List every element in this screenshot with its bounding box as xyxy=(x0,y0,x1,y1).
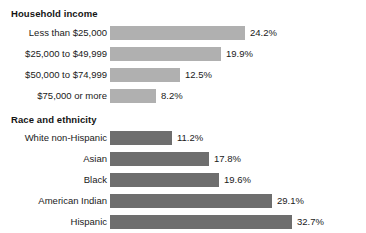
section-title-race-and-ethnicity: Race and ethnicity xyxy=(11,114,97,125)
bar-category-label: Less than $25,000 xyxy=(29,26,107,40)
bar-category-label: $50,000 to $74,999 xyxy=(25,68,107,82)
bar-category-label: American Indian xyxy=(38,194,107,208)
bar-value-label: 29.1% xyxy=(277,194,304,208)
bar-fill xyxy=(110,26,245,40)
bar-row: Asian 17.8% xyxy=(0,152,366,166)
bar-track: 19.9% xyxy=(110,47,366,61)
bar-row: Less than $25,000 24.2% xyxy=(0,26,366,40)
bar-fill xyxy=(110,68,180,82)
chart-panel-household-income: Household income Less than $25,000 24.2%… xyxy=(0,0,366,110)
bar-row: American Indian 29.1% xyxy=(0,194,366,208)
bar-value-label: 24.2% xyxy=(250,26,277,40)
bar-track: 29.1% xyxy=(110,194,366,208)
bar-value-label: 12.5% xyxy=(185,68,212,82)
bar-track: 12.5% xyxy=(110,68,366,82)
bar-row: Black 19.6% xyxy=(0,173,366,187)
bar-fill xyxy=(110,215,292,229)
bar-category-label: $75,000 or more xyxy=(37,89,107,103)
bar-fill xyxy=(110,47,221,61)
bar-row: $75,000 or more 8.2% xyxy=(0,89,366,103)
bar-category-label: Hispanic xyxy=(71,215,107,229)
bar-fill xyxy=(110,152,209,166)
bar-category-label: Black xyxy=(84,173,107,187)
bar-value-label: 11.2% xyxy=(177,131,203,145)
bar-value-label: 19.9% xyxy=(226,47,253,61)
bar-value-label: 32.7% xyxy=(297,215,324,229)
grouped-bar-chart: Household income Less than $25,000 24.2%… xyxy=(0,0,366,233)
bar-category-label: Asian xyxy=(83,152,107,166)
bar-fill xyxy=(110,194,272,208)
bar-row: White non-Hispanic 11.2% xyxy=(0,131,366,145)
bar-value-label: 19.6% xyxy=(224,173,251,187)
bar-category-label: White non-Hispanic xyxy=(25,131,107,145)
bar-value-label: 17.8% xyxy=(214,152,241,166)
bar-fill xyxy=(110,173,219,187)
bar-track: 32.7% xyxy=(110,215,366,229)
bar-row: Hispanic 32.7% xyxy=(0,215,366,229)
bar-track: 24.2% xyxy=(110,26,366,40)
section-title-household-income: Household income xyxy=(11,8,98,19)
bar-category-label: $25,000 to $49,999 xyxy=(25,47,107,61)
bar-value-label: 8.2% xyxy=(161,89,183,103)
bar-track: 11.2% xyxy=(110,131,366,145)
bar-track: 17.8% xyxy=(110,152,366,166)
bar-fill xyxy=(110,131,172,145)
bar-row: $50,000 to $74,999 12.5% xyxy=(0,68,366,82)
bar-row: $25,000 to $49,999 19.9% xyxy=(0,47,366,61)
bar-track: 8.2% xyxy=(110,89,366,103)
bar-track: 19.6% xyxy=(110,173,366,187)
chart-panel-race-and-ethnicity: Race and ethnicity White non-Hispanic 11… xyxy=(0,110,366,233)
bar-fill xyxy=(110,89,156,103)
